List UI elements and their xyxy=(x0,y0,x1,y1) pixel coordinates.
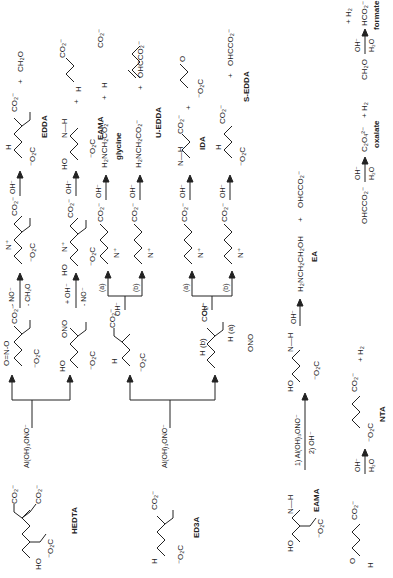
reagent-row2: Al(OH)₃ONO⁻ xyxy=(161,424,169,468)
edda-plus: + xyxy=(16,79,25,84)
label-oxalate: oxalate xyxy=(372,120,381,148)
formate-reactant: CH₂O xyxy=(360,59,369,80)
label-edda: EDDA xyxy=(40,115,49,138)
eama-start-ho: HO xyxy=(286,540,295,552)
row3-int-nh: N—H xyxy=(286,332,295,352)
branch-a-upper: (a) xyxy=(98,283,105,292)
eama-start-o2c: ⁻O₂C xyxy=(316,519,325,538)
ea-ohcco2: OHCCO₂⁻ xyxy=(296,171,305,208)
cat2c-co2: CO₂⁻ xyxy=(180,203,189,222)
ida-co2: CO₂⁻ xyxy=(176,115,185,134)
int2b-hb: H (b) xyxy=(198,338,207,356)
eama-byproduct-co2: CO₂⁻ xyxy=(58,39,67,58)
oxalate-product: C₂O₄²⁻ xyxy=(360,127,369,152)
oxalate-h2o: H₂O xyxy=(368,167,375,180)
sedda-ohcco2: OHCCO₂⁻ xyxy=(226,29,235,66)
glycine-byproduct-co2: CO₂⁻ xyxy=(96,29,105,48)
int1a-co2: CO₂⁻ xyxy=(10,305,19,324)
eama-byproduct-h: H xyxy=(74,86,83,92)
sedda-co2: CO₂⁻ xyxy=(218,105,227,124)
cat2a-nplus: N⁺ xyxy=(112,248,121,258)
reagent-row1: Al(OH)₃ONO⁻ xyxy=(23,424,31,468)
oh-row3: OH⁻ xyxy=(290,310,298,325)
cat1b-co2: CO₂⁻ xyxy=(66,199,75,218)
oxalate-h2: + H₂ xyxy=(360,102,369,118)
uedda-plus: + xyxy=(136,85,145,90)
label-hedta: HEDTA xyxy=(70,507,79,534)
int2b-ono: ONO xyxy=(246,334,255,352)
oh-row1b: OH⁻ xyxy=(65,180,73,195)
edda-h: H xyxy=(4,144,13,150)
oh-2b: OH⁻ xyxy=(129,184,137,199)
int1a-o2c: ⁻O₂C xyxy=(32,349,41,368)
cond-minus-no-b: - NO⁻ xyxy=(80,287,88,306)
oh-2a: OH⁻ xyxy=(95,184,103,199)
eama-plus: + xyxy=(72,99,81,104)
cat1b-o2c: ⁻O₂C xyxy=(88,247,97,266)
oh-split-upper: OH⁻ xyxy=(114,302,122,317)
label-ed3a: ED3A xyxy=(192,517,201,538)
nta-oh: OH⁻ xyxy=(354,458,362,473)
oh-2d: OH⁻ xyxy=(219,184,227,199)
label-glycine: glycine xyxy=(114,132,123,160)
sedda-plus: + xyxy=(226,73,235,78)
branch-b-lower: (b) xyxy=(222,283,229,292)
ida-byproduct-o: O xyxy=(178,56,187,62)
glycine-formula: H₂NCH₂CO₂⁻ xyxy=(100,120,109,168)
edda-co2: CO₂⁻ xyxy=(10,93,19,112)
ea-formula: H₂NCH₂CH₂OH xyxy=(296,236,305,292)
ida-plus: + xyxy=(184,105,193,110)
cond-minus-no-a: - NO⁻ xyxy=(8,287,16,306)
label-sedda: S-EDDA xyxy=(242,71,251,102)
cat1a-nplus: N⁺ xyxy=(4,240,13,250)
eama-nh: N—H xyxy=(60,118,69,138)
uedda-h2n: H₂NCH₂CO₂⁻ xyxy=(134,120,143,168)
cat1a-co2: CO₂⁻ xyxy=(10,197,19,216)
eama-o2c: ⁻O₂C xyxy=(88,139,97,158)
formate-product: HCO₂⁻ xyxy=(360,1,369,26)
int2a-o2c: ⁻O₂C xyxy=(138,353,147,372)
eama-start-nh: N—H xyxy=(286,494,295,514)
nta-h2o: H₂O xyxy=(368,459,375,472)
reagent-row3-2: 2) OH⁻ xyxy=(308,431,316,454)
formate-oh: OH⁻ xyxy=(354,38,362,53)
reagent-row3-1: 1) Al(OH)₃ONO⁻ xyxy=(294,414,302,466)
sedda-h: H xyxy=(214,144,223,150)
int1b-ho: HO xyxy=(58,360,67,372)
label-formate: formate xyxy=(372,1,381,30)
formate-h2o: H₂O xyxy=(368,39,375,52)
oh-2c: OH⁻ xyxy=(179,184,187,199)
formate-h2: + H₂ xyxy=(344,8,353,24)
eama-ho: HO xyxy=(60,158,69,170)
sedda-o2c: ⁻O₂C xyxy=(238,147,247,166)
branch-a-lower: (a) xyxy=(182,283,189,292)
hedta-co2-1: CO₂⁻ xyxy=(10,485,19,504)
oxalate-reactant: OHCCO₂⁻ xyxy=(360,187,369,224)
uedda-ohcco2: OHCCO₂⁻ xyxy=(136,41,145,78)
label-ida: IDA xyxy=(198,136,207,150)
hedta-ho: HO xyxy=(34,558,43,570)
hedta-o2c: ⁻O₂C xyxy=(46,539,55,558)
nta-start-h: H xyxy=(366,562,375,568)
nta-co2: CO₂⁻ xyxy=(350,373,359,392)
ea-plus: + xyxy=(296,217,305,222)
oh-split-lower: OH⁻ xyxy=(201,302,209,317)
int1a-onO: O=N-O xyxy=(2,340,11,366)
reaction-scheme: HO ⁻O₂C CO₂⁻ CO₂⁻ HEDTA Al(OH)₃ONO⁻ O=N-… xyxy=(0,0,393,578)
int2b-ha: H (a) xyxy=(226,324,235,342)
edda-o2c: ⁻O₂C xyxy=(28,147,37,166)
cat2b-co2: CO₂⁻ xyxy=(130,203,139,222)
ed3a-co2: CO₂⁻ xyxy=(150,491,159,510)
label-eama-start: EAMA xyxy=(312,488,321,512)
ed3a-h: H xyxy=(150,558,159,564)
cat2b-nplus: N⁺ xyxy=(146,248,155,258)
int1b-ono: ONO xyxy=(60,320,69,338)
cat2a-co2: CO₂⁻ xyxy=(96,203,105,222)
nta-start-co2: CO₂⁻ xyxy=(350,501,359,520)
ida-byproduct-o2c: ⁻O₂C xyxy=(196,79,205,98)
nta-o2c: ⁻O₂C xyxy=(366,423,375,442)
glycine-byproduct-h: H xyxy=(100,82,109,88)
cat1b-ho: HO xyxy=(60,264,69,276)
cond-minus-ch2o: - CH₂O xyxy=(24,283,31,306)
row3-int-o2c: ⁻O₂C xyxy=(312,361,321,380)
